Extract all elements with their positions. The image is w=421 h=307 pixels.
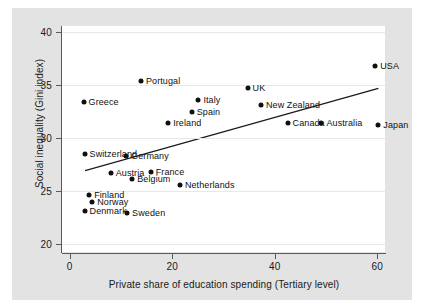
gridline: [62, 244, 385, 245]
trendline: [62, 26, 385, 252]
plot-area: [62, 26, 385, 252]
data-point: [245, 86, 250, 91]
gridline: [62, 32, 385, 33]
y-axis-tick: [56, 138, 61, 139]
x-axis-tick: [275, 254, 276, 259]
data-point: [177, 183, 182, 188]
data-point: [130, 177, 135, 182]
y-axis-tick: [56, 32, 61, 33]
data-point: [125, 210, 130, 215]
data-point: [189, 109, 194, 114]
data-point: [138, 78, 143, 83]
data-point: [166, 121, 171, 126]
x-axis-tick: [70, 254, 71, 259]
data-point: [108, 170, 113, 175]
data-point: [258, 103, 263, 108]
data-point: [87, 192, 92, 197]
data-point: [285, 121, 290, 126]
data-point-label: Spain: [197, 107, 221, 117]
y-axis-tick-label: 30: [14, 133, 52, 144]
data-point-label: Portugal: [146, 76, 180, 86]
data-point-label: Belgium: [137, 174, 170, 184]
scatter-plot-figure: Social inequality (Gini index) Private s…: [0, 0, 421, 307]
gridline: [62, 85, 385, 86]
data-point: [373, 64, 378, 69]
y-axis-tick: [56, 244, 61, 245]
x-axis-tick: [377, 254, 378, 259]
data-point-label: UK: [253, 83, 266, 93]
data-point: [82, 151, 87, 156]
data-point-label: Italy: [203, 95, 220, 105]
y-axis-title: Social inequality (Gini index): [34, 14, 45, 234]
data-point-label: USA: [380, 61, 399, 71]
data-point-label: Denmark: [90, 206, 127, 216]
y-axis-tick-label: 25: [14, 186, 52, 197]
data-point-label: Greece: [89, 97, 119, 107]
data-point: [196, 97, 201, 102]
data-point-label: Ireland: [173, 118, 201, 128]
x-axis-title: Private share of education spending (Ter…: [62, 279, 386, 290]
y-axis-line: [61, 26, 62, 253]
x-axis-line: [62, 253, 386, 254]
y-axis-tick-label: 35: [14, 80, 52, 91]
data-point-label: Australia: [326, 118, 362, 128]
x-axis-tick-label: 0: [50, 261, 90, 272]
data-point-label: Germany: [131, 151, 169, 161]
data-point-label: Sweden: [132, 208, 165, 218]
data-point-label: Switzerland: [90, 149, 138, 159]
y-axis-tick: [56, 191, 61, 192]
data-point: [81, 100, 86, 105]
x-axis-tick: [172, 254, 173, 259]
data-point-label: Japan: [383, 120, 408, 130]
data-point-label: New Zealand: [266, 100, 320, 110]
data-point: [376, 123, 381, 128]
x-axis-tick-label: 20: [152, 261, 192, 272]
y-axis-tick-label: 20: [14, 239, 52, 250]
x-axis-tick-label: 40: [255, 261, 295, 272]
data-point: [124, 153, 129, 158]
data-point-label: Netherlands: [185, 180, 235, 190]
data-point: [82, 208, 87, 213]
x-axis-tick-label: 60: [357, 261, 397, 272]
y-axis-tick-label: 40: [14, 27, 52, 38]
y-axis-tick: [56, 85, 61, 86]
gridline: [62, 138, 385, 139]
data-point: [90, 200, 95, 205]
data-point: [319, 121, 324, 126]
